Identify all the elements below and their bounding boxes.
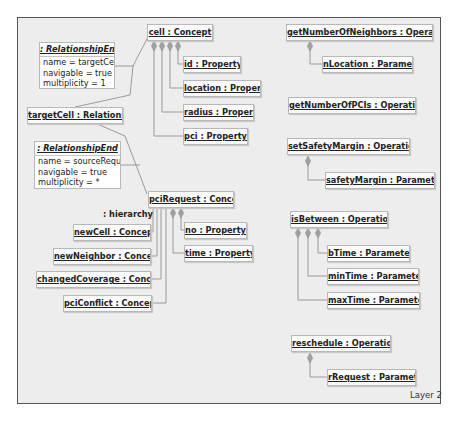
concept-changed-coverage[interactable]: changedCoverage : Concept [36, 271, 151, 288]
operation-get-number-of-neighbors[interactable]: getNumberOfNeighbors : Operation [286, 24, 433, 41]
concept-pci-request[interactable]: pciRequest : Concept [148, 191, 234, 208]
property-pci[interactable]: pci : Property [183, 128, 248, 145]
relationship-end-navigable: navigable = true [35, 167, 120, 178]
relationship-target-cell[interactable]: targetCell : Relationship [27, 107, 123, 124]
concept-pci-conflict[interactable]: pciConflict : Concept [63, 295, 152, 312]
parameter-b-time[interactable]: bTime : Parameter [327, 245, 410, 262]
relationship-end-header: : RelationshipEnd [35, 142, 120, 156]
concept-cell[interactable]: cell : Concept [147, 24, 213, 41]
property-id[interactable]: id : Property [183, 56, 241, 73]
concept-new-neighbor[interactable]: newNeighbor : Concept [53, 248, 151, 265]
layer-label: Layer 2 [410, 390, 442, 400]
relationship-end-navigable: navigable = true [40, 68, 114, 79]
parameter-n-location[interactable]: nLocation : Parameter [322, 56, 413, 73]
property-location[interactable]: location : Property [183, 80, 261, 97]
relationship-end-target[interactable]: : RelationshipEnd name = targetCell navi… [39, 42, 115, 89]
parameter-min-time[interactable]: minTime : Parameter [327, 268, 419, 285]
operation-is-between[interactable]: isBetween : Operation [290, 211, 388, 228]
relationship-end-multiplicity: multiplicity = 1 [40, 78, 114, 89]
operation-reschedule[interactable]: reschedule : Operation [291, 335, 391, 352]
relationship-end-source[interactable]: : RelationshipEnd name = sourceRequest n… [34, 141, 121, 189]
relationship-end-name: name = sourceRequest [35, 156, 120, 167]
relationship-end-multiplicity: multiplicity = * [35, 177, 120, 188]
concept-new-cell[interactable]: newCell : Concept [73, 224, 151, 241]
relationship-end-header: : RelationshipEnd [40, 43, 114, 57]
parameter-r-request[interactable]: rRequest : Parameter [327, 369, 416, 386]
operation-get-number-of-pcis[interactable]: getNumberOfPCIs : Operation [288, 97, 416, 114]
property-no[interactable]: no : Property [184, 222, 247, 239]
property-time[interactable]: time : Property [184, 245, 253, 262]
parameter-max-time[interactable]: maxTime : Parameter [327, 292, 420, 309]
parameter-safety-margin[interactable]: safetyMargin : Parameter [325, 172, 435, 189]
hierarchy-label: : hierarchy [103, 209, 153, 219]
operation-set-safety-margin[interactable]: setSafetyMargin : Operation [287, 138, 410, 155]
relationship-end-name: name = targetCell [40, 57, 114, 68]
property-radius[interactable]: radius : Property [183, 104, 254, 121]
